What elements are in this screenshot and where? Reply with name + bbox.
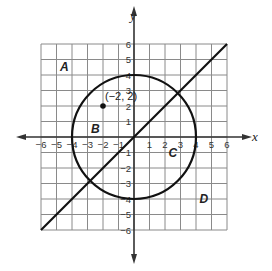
y-tick-label: −5 — [120, 209, 131, 220]
x-tick-label: 6 — [224, 139, 229, 150]
y-tick-label: 6 — [126, 39, 131, 50]
y-tick-label: 2 — [126, 101, 131, 112]
axes — [16, 6, 252, 264]
region-label-a: A — [59, 60, 69, 74]
x-tick-label: 5 — [209, 139, 214, 150]
region-label-d: D — [199, 192, 208, 206]
x-tick-label: 3 — [178, 139, 183, 150]
x-tick-label: −6 — [36, 139, 47, 150]
y-tick-label: −6 — [120, 225, 131, 236]
x-tick-label: −3 — [82, 139, 93, 150]
x-tick-label: 2 — [162, 139, 167, 150]
region-label-b: B — [91, 122, 100, 136]
y-tick-label: 1 — [126, 116, 131, 127]
x-tick-label: 1 — [147, 139, 152, 150]
y-tick-label: −2 — [120, 163, 131, 174]
point — [100, 103, 106, 109]
region-label-c: C — [168, 146, 177, 160]
y-tick-label: −3 — [120, 178, 131, 189]
point-label: (−2, 2) — [105, 90, 137, 102]
y-axis-label: y — [128, 8, 136, 23]
y-tick-label: 5 — [126, 54, 131, 65]
x-tick-label: −5 — [51, 139, 62, 150]
x-axis-right-arrow-icon — [242, 134, 252, 140]
x-axis-left-arrow-icon — [16, 134, 26, 140]
x-axis-label: x — [251, 129, 258, 144]
coordinate-plane: −6−5−4−3−2−1123456654321−1−2−3−4−5−6 (−2… — [0, 0, 272, 271]
x-tick-label: −2 — [98, 139, 109, 150]
y-axis-down-arrow-icon — [131, 254, 137, 264]
